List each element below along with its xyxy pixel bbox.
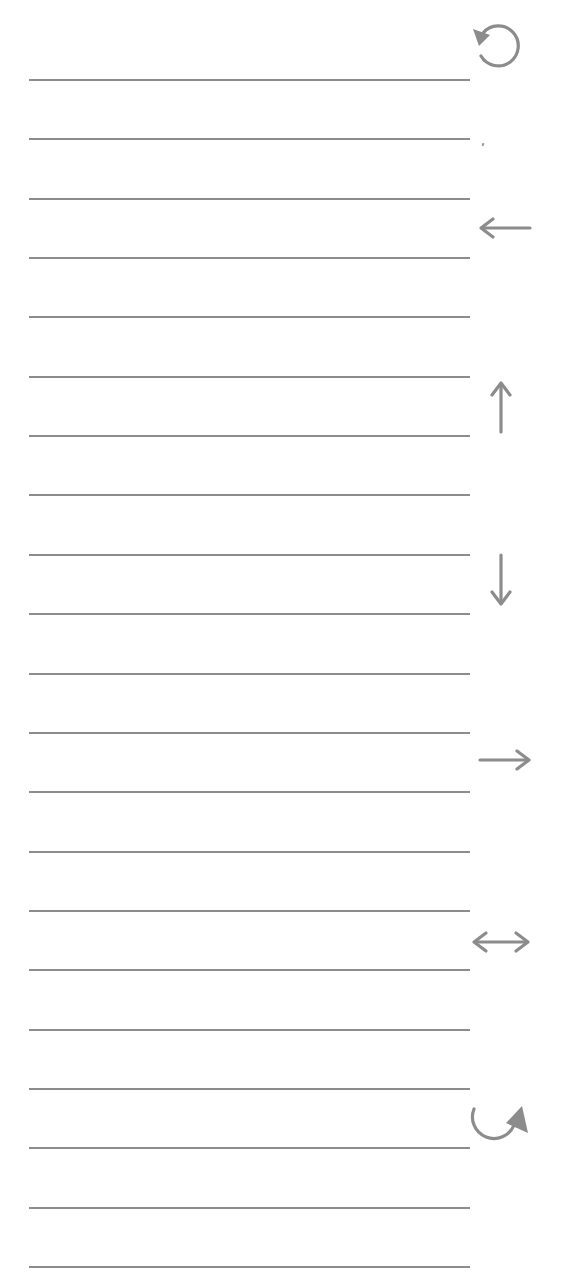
ruled-line — [29, 791, 470, 793]
arrow-right-icon — [478, 748, 532, 772]
ruled-line — [29, 1088, 470, 1090]
ruled-line — [29, 851, 470, 853]
ruled-line — [29, 79, 470, 81]
ruled-line — [29, 732, 470, 734]
ruled-line — [29, 554, 470, 556]
ruled-line — [29, 969, 470, 971]
ruled-line — [29, 1266, 470, 1268]
ruled-line — [29, 1207, 470, 1209]
rotate-clockwise-icon — [468, 1103, 530, 1147]
ruled-line — [29, 257, 470, 259]
ruled-line — [29, 435, 470, 437]
ruled-line — [29, 1029, 470, 1031]
ruled-line — [29, 673, 470, 675]
ruled-line — [29, 1147, 470, 1149]
arrow-left-icon — [478, 216, 532, 240]
ruled-line — [29, 910, 470, 912]
ruled-line — [29, 376, 470, 378]
arrow-down-icon — [488, 553, 514, 607]
paper-speck — [482, 143, 485, 147]
ruled-line — [29, 138, 470, 140]
ruled-line — [29, 198, 470, 200]
arrow-left-right-icon — [470, 929, 532, 955]
ruled-line — [29, 613, 470, 615]
arrow-up-icon — [488, 380, 514, 434]
ruled-line — [29, 494, 470, 496]
ruled-line — [29, 316, 470, 318]
rotate-counterclockwise-icon — [470, 22, 526, 74]
